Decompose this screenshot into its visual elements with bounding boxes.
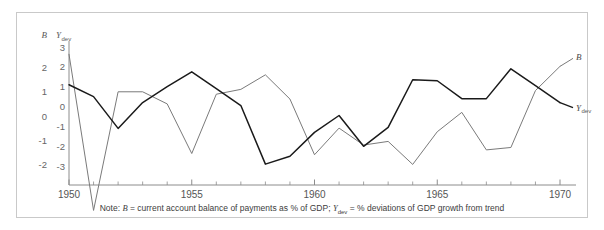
note-y-definition: = % deviations of GDP growth from trend — [350, 203, 505, 213]
note-symbol-b: B — [122, 203, 127, 213]
x-axis-tick-label: 1965 — [426, 189, 449, 200]
b-axis-tick-label: 0 — [42, 111, 47, 122]
series-end-label-b: B — [576, 52, 582, 62]
figure-container: 195019551960196519703210-1-2-3210-1-2 BY… — [0, 0, 604, 230]
b-axis-tick-label: 1 — [42, 86, 47, 97]
data-series-group — [69, 54, 560, 210]
ydev-leader-line — [560, 103, 573, 108]
series-end-labels-group: BYdev — [560, 52, 591, 114]
b-axis-tick-label: -1 — [39, 135, 47, 146]
ydev-axis-tick-label: 3 — [60, 42, 65, 53]
axes-group — [69, 41, 576, 185]
ydev-axis-tick-label: 1 — [60, 81, 65, 92]
b-axis-tick-label: -2 — [39, 159, 47, 170]
x-axis-tick-label: 1960 — [303, 189, 326, 200]
ydev-axis-tick-label: -2 — [57, 141, 65, 152]
chart-plot: 195019551960196519703210-1-2-3210-1-2 BY… — [0, 0, 604, 230]
x-axis-tick-label: 1950 — [58, 189, 81, 200]
tick-labels-group: 195019551960196519703210-1-2-3210-1-2 — [39, 42, 572, 201]
axis-titles-group: BYdev — [42, 30, 72, 42]
chart-note: Note: B = current account balance of pay… — [16, 203, 588, 215]
ydev-axis-tick-label: 2 — [60, 61, 65, 72]
series-end-label-ydev: Ydev — [576, 103, 591, 115]
tick-marks-group — [69, 180, 560, 186]
b-leader-line — [560, 58, 573, 66]
b-axis-tick-label: 2 — [42, 62, 47, 73]
b-axis-title: B — [42, 30, 48, 40]
x-axis-tick-label: 1970 — [549, 189, 572, 200]
ydev-axis-title: Ydev — [56, 30, 71, 42]
note-b-definition: = current account balance of payments as… — [130, 203, 331, 213]
note-prefix: Note: — [100, 203, 120, 213]
ydev-axis-tick-label: -3 — [57, 161, 65, 172]
ydev-axis-tick-label: -1 — [57, 121, 65, 132]
x-axis-tick-label: 1955 — [181, 189, 204, 200]
note-symbol-y-subscript: dev — [338, 209, 348, 215]
ydev-axis-tick-label: 0 — [60, 101, 65, 112]
